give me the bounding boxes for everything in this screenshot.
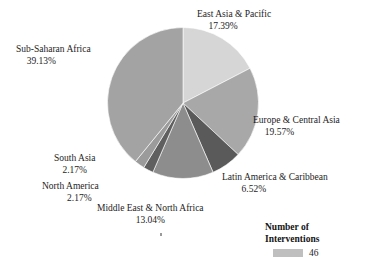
- slice-label-percent: 13.04%: [97, 215, 204, 227]
- legend-title-line-1: Number of: [265, 222, 365, 234]
- slice-label-east-asia-pacific: East Asia & Pacific 17.39%: [197, 9, 271, 32]
- legend-entry-value: 46: [309, 248, 319, 258]
- scan-artifact-speck: [160, 233, 162, 236]
- slice-label-name: Sub-Saharan Africa: [16, 44, 91, 56]
- slice-label-name: East Asia & Pacific: [197, 9, 271, 21]
- slice-label-sub-saharan-africa: Sub-Saharan Africa 39.13%: [16, 44, 91, 67]
- slice-label-percent: 17.39%: [197, 21, 271, 33]
- pie-slice-group: [108, 28, 259, 179]
- legend: Number of Interventions 46: [265, 222, 365, 258]
- legend-swatch-icon: [273, 249, 303, 257]
- slice-label-percent: 2.17%: [42, 193, 99, 205]
- slice-label-middle-east-north-africa: Middle East & North Africa 13.04%: [97, 203, 204, 226]
- slice-label-name: Middle East & North Africa: [97, 203, 204, 215]
- pie-chart-figure: East Asia & Pacific 17.39% Sub-Saharan A…: [0, 0, 370, 271]
- slice-label-percent: 2.17%: [54, 165, 95, 177]
- slice-label-percent: 6.52%: [222, 184, 328, 196]
- slice-label-percent: 39.13%: [16, 56, 91, 68]
- slice-label-name: South Asia: [54, 153, 95, 165]
- slice-label-europe-central-asia: Europe & Central Asia 19.57%: [253, 115, 340, 138]
- slice-label-percent: 19.57%: [253, 127, 340, 139]
- legend-title-line-2: Interventions: [265, 234, 365, 246]
- slice-label-name: North America: [42, 181, 99, 193]
- slice-label-north-america: North America 2.17%: [42, 181, 99, 204]
- pie-chart-graphic: [107, 27, 259, 179]
- slice-label-south-asia: South Asia 2.17%: [54, 153, 95, 176]
- slice-label-latin-america-caribbean: Latin America & Caribbean 6.52%: [222, 172, 328, 195]
- slice-label-name: Latin America & Caribbean: [222, 172, 328, 184]
- slice-label-name: Europe & Central Asia: [253, 115, 340, 127]
- legend-entry: 46: [265, 248, 365, 258]
